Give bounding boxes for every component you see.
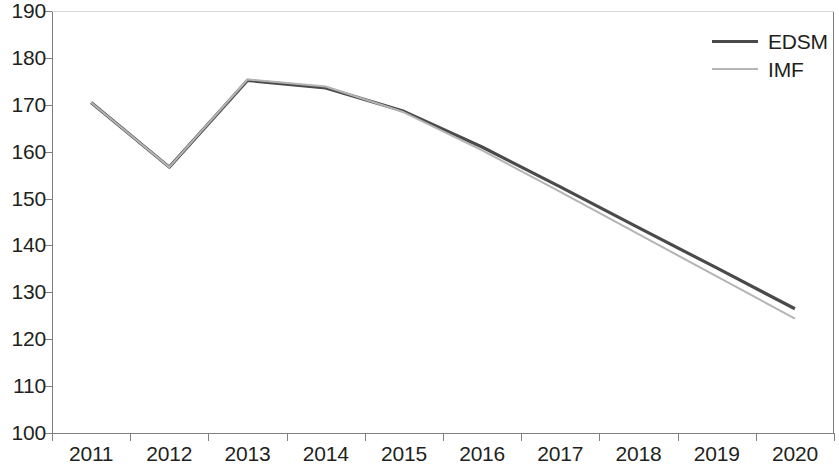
- series-line-imf: [91, 79, 795, 318]
- x-axis-tick-label: 2016: [443, 441, 521, 472]
- line-chart-figure: 100110120130140150160170180190 201120122…: [0, 0, 839, 472]
- legend-label-imf: IMF: [758, 59, 804, 80]
- y-axis-tick-label: 150: [2, 188, 46, 209]
- x-axis-tick-label: 2013: [208, 441, 286, 472]
- chart-series: [91, 79, 795, 318]
- chart-legend: EDSM IMF: [712, 27, 832, 83]
- x-axis-tick-label: 2017: [521, 441, 599, 472]
- y-axis-tick-label: 140: [2, 234, 46, 255]
- x-axis-tick-labels: 2011201220132014201520162017201820192020: [52, 441, 834, 472]
- line-swatch-edsm-icon: [712, 34, 758, 48]
- y-axis-tick-label: 170: [2, 94, 46, 115]
- y-axis-tick-label: 100: [2, 422, 46, 443]
- line-swatch-imf-icon: [712, 62, 758, 76]
- x-axis-tick-label: 2012: [130, 441, 208, 472]
- x-axis-tick-label: 2018: [599, 441, 677, 472]
- legend-entry-edsm: EDSM: [712, 27, 832, 55]
- y-axis-tick-label: 130: [2, 281, 46, 302]
- y-axis-tick-label: 160: [2, 141, 46, 162]
- x-axis-tick-label: 2014: [287, 441, 365, 472]
- y-axis-tick-label: 120: [2, 328, 46, 349]
- x-axis-tick-label: 2015: [365, 441, 443, 472]
- x-axis-tick-label: 2020: [756, 441, 834, 472]
- y-axis-tick-label: 180: [2, 47, 46, 68]
- y-axis-tick-label: 110: [2, 375, 46, 396]
- series-line-edsm: [91, 80, 795, 308]
- legend-label-edsm: EDSM: [758, 31, 828, 52]
- y-axis-tick-labels: 100110120130140150160170180190: [0, 0, 46, 472]
- x-axis-tick-label: 2019: [678, 441, 756, 472]
- x-axis-tick-label: 2011: [52, 441, 130, 472]
- y-axis-tick-label: 190: [2, 0, 46, 21]
- legend-entry-imf: IMF: [712, 55, 832, 83]
